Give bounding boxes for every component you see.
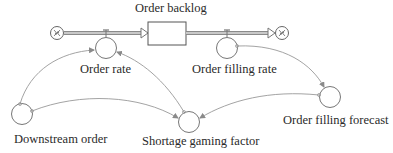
order-backlog-stock [148,22,186,45]
inflow-pipe [64,28,148,38]
order-filling-rate-node [217,38,238,59]
sink-cloud-icon [276,27,289,40]
order-filling-rate-label: Order filling rate [192,62,277,77]
order-rate-node [96,38,117,59]
source-cloud-icon [51,27,64,40]
stock-label: Order backlog [135,1,207,16]
shortage-gaming-factor-node [179,112,200,133]
order-rate-label: Order rate [80,62,131,77]
shortage-gaming-factor-label: Shortage gaming factor [142,134,259,149]
link-downstream-to-order-rate [20,50,94,104]
downstream-order-node [12,104,33,125]
downstream-order-label: Downstream order [14,132,107,147]
outflow-pipe [186,28,275,38]
order-filling-forecast-node [320,87,341,108]
link-shortage-to-order-rate [117,52,184,112]
order-filling-forecast-label: Order filling forecast [283,113,389,128]
link-downstream-to-shortage [32,99,178,118]
